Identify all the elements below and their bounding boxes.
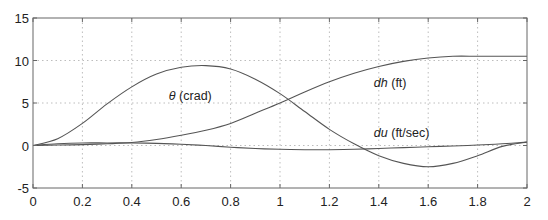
x-tick-label: 0.6: [172, 194, 190, 209]
series-annotation: du (ft/sec): [374, 126, 430, 140]
series-annotation: dh (ft): [374, 76, 407, 90]
x-tick-label: 2: [523, 194, 530, 209]
x-tick-label: 1.6: [419, 194, 437, 209]
y-tick-label: 0: [22, 139, 29, 154]
x-tick-label: 1: [276, 194, 283, 209]
x-tick-label: 0.4: [123, 194, 141, 209]
series-line-theta: [33, 66, 527, 167]
x-tick-label: 1.8: [469, 194, 487, 209]
y-tick-label: 15: [15, 11, 29, 26]
x-tick-label: 0.2: [73, 194, 91, 209]
line-chart: 00.20.40.60.811.21.41.61.82 -5051015 θ (…: [0, 0, 548, 220]
x-axis-tick-labels: 00.20.40.60.811.21.41.61.82: [29, 194, 530, 209]
series-annotation: θ (crad): [169, 89, 212, 103]
x-tick-label: 1.4: [370, 194, 388, 209]
y-axis-tick-labels: -5051015: [15, 11, 29, 196]
y-tick-label: 5: [22, 96, 29, 111]
x-tick-label: 0.8: [222, 194, 240, 209]
y-tick-label: -5: [17, 181, 29, 196]
y-tick-label: 10: [15, 54, 29, 69]
x-tick-label: 0: [29, 194, 36, 209]
series-line-dh: [33, 56, 527, 145]
x-tick-label: 1.2: [320, 194, 338, 209]
